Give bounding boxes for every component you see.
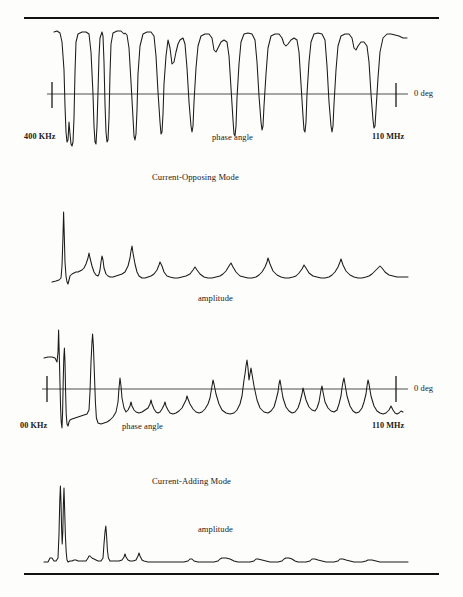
left-freq-label-adding: 00 KHz bbox=[20, 421, 47, 430]
right-freq-label-opposing: 110 MHz bbox=[372, 132, 404, 141]
phase-ref-label-opposing: 0 deg bbox=[414, 88, 433, 98]
panel-current-adding: 00 KHz 110 MHz 0 deg phase angle Current… bbox=[0, 322, 463, 570]
phase-angle-label-adding: phase angle bbox=[122, 421, 163, 431]
amplitude-plot-opposing: amplitude bbox=[0, 206, 463, 286]
amplitude-trace-opposing bbox=[52, 212, 408, 284]
phase-trace-opposing bbox=[54, 31, 407, 146]
amplitude-label-adding: amplitude bbox=[198, 524, 233, 534]
phase-ref-label-adding: 0 deg bbox=[414, 383, 433, 393]
top-rule bbox=[24, 17, 439, 19]
left-freq-label-opposing: 400 KHz bbox=[24, 132, 55, 141]
mode-label-opposing: Current-Opposing Mode bbox=[152, 172, 239, 182]
bottom-rule bbox=[24, 573, 439, 575]
panel-current-opposing: 400 KHz 110 MHz 0 deg phase angle Curren… bbox=[0, 22, 463, 307]
right-freq-label-adding: 110 MHz bbox=[372, 421, 404, 430]
page-caption-faint bbox=[0, 583, 463, 594]
phase-plot-adding: 00 KHz 110 MHz 0 deg phase angle bbox=[0, 322, 463, 447]
amplitude-plot-adding: amplitude bbox=[0, 482, 463, 570]
phase-plot-opposing: 400 KHz 110 MHz 0 deg phase angle bbox=[0, 22, 463, 157]
amplitude-label-opposing: amplitude bbox=[198, 293, 233, 303]
document-page: 400 KHz 110 MHz 0 deg phase angle Curren… bbox=[0, 0, 463, 597]
phase-trace-adding bbox=[44, 330, 403, 428]
phase-angle-label-opposing: phase angle bbox=[212, 132, 253, 142]
